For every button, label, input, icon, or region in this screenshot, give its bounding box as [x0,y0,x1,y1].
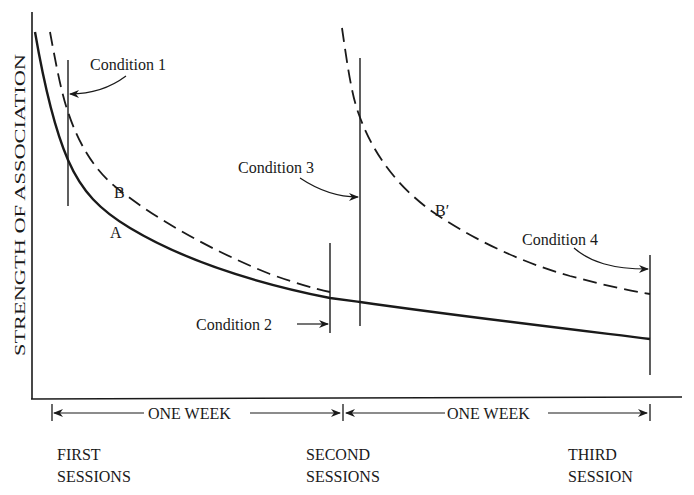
third-session-line1: THIRD [568,446,617,463]
condition-4-label: Condition 4 [522,231,598,248]
curve-b-prime-label: B′ [435,202,449,219]
second-session-line1: SECOND [306,446,370,463]
condition-3-label: Condition 3 [238,159,314,176]
interval-bracket-1: ONE WEEK [52,404,340,422]
curve-a [35,32,650,339]
condition-4-arrow-icon [574,248,648,269]
curve-b-prime [342,28,650,294]
condition-1-label: Condition 1 [90,56,166,73]
second-session-line2: SESSIONS [306,468,380,485]
interval-2-label: ONE WEEK [447,405,530,422]
association-diagram: STRENGTH OF ASSOCIATION A B B′ Condition… [0,0,694,495]
condition-1-arrow-icon [70,76,126,94]
condition-2-label: Condition 2 [196,316,272,333]
condition-3-arrow-icon [300,178,358,197]
first-session-line2: SESSIONS [57,468,131,485]
curve-b-label: B [114,184,125,201]
first-session-line1: FIRST [57,446,101,463]
interval-1-label: ONE WEEK [148,405,231,422]
curve-a-label: A [110,224,122,241]
interval-bracket-2: ONE WEEK [346,404,650,422]
third-session-line2: SESSION [568,468,633,485]
y-axis-label: STRENGTH OF ASSOCIATION [11,54,28,356]
x-axis [31,397,682,399]
